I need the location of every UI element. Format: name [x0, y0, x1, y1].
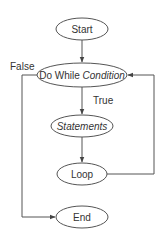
condition-label-italic: Condition: [83, 70, 126, 81]
do-while-flowchart: True False Start Do While Condition Stat…: [0, 0, 163, 243]
start-label: Start: [71, 24, 92, 35]
node-condition: Do While Condition: [37, 63, 127, 87]
condition-label: Do While Condition: [39, 70, 125, 81]
node-start: Start: [56, 18, 108, 40]
edge-condition-true: True: [82, 87, 114, 114]
node-end: End: [56, 206, 108, 228]
false-label: False: [10, 61, 35, 72]
node-loop: Loop: [57, 163, 107, 185]
loop-label: Loop: [71, 169, 94, 180]
condition-label-prefix: Do While: [39, 70, 82, 81]
edge-loop-back: [107, 75, 154, 174]
node-statements: Statements: [51, 115, 113, 137]
statements-label: Statements: [57, 121, 108, 132]
end-label: End: [73, 212, 91, 223]
edge-condition-false: False: [10, 61, 55, 217]
true-label: True: [93, 95, 114, 106]
